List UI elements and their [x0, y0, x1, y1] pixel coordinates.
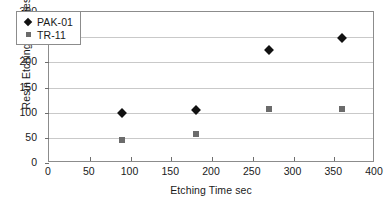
y-tick-mark — [45, 88, 49, 89]
gridline — [49, 37, 373, 38]
chart-legend: PAK‑01 TR‑11 — [16, 11, 81, 45]
data-point — [193, 131, 199, 137]
gridline — [49, 113, 373, 114]
x-tick-mark — [294, 157, 295, 161]
y-tick-mark — [45, 163, 49, 164]
x-tick-label: 350 — [324, 165, 342, 177]
data-point — [337, 33, 347, 43]
x-tick-mark — [334, 157, 335, 161]
diamond-marker-icon — [22, 19, 34, 25]
x-tick-mark — [131, 157, 132, 161]
legend-item-0: PAK‑01 — [22, 15, 73, 28]
x-tick-mark — [90, 157, 91, 161]
x-tick-label: 100 — [121, 165, 139, 177]
data-point — [339, 106, 345, 112]
chart-figure: Resin Etching Thickness nm 0501001502002… — [0, 0, 391, 208]
x-tick-label: 200 — [202, 165, 220, 177]
gridline — [49, 88, 373, 89]
x-tick-label: 150 — [161, 165, 179, 177]
x-axis-title: Etching Time sec — [48, 184, 374, 196]
plot-area — [48, 11, 374, 162]
data-point — [264, 45, 274, 55]
x-tick-label: 400 — [365, 165, 383, 177]
x-tick-mark — [212, 157, 213, 161]
x-tick-label: 0 — [45, 165, 51, 177]
x-tick-label: 300 — [284, 165, 302, 177]
legend-item-label: PAK‑01 — [37, 16, 73, 28]
data-point — [266, 106, 272, 112]
gridline — [49, 62, 373, 63]
gridline — [49, 138, 373, 139]
x-tick-mark — [253, 157, 254, 161]
y-tick-mark — [45, 62, 49, 63]
legend-item-1: TR‑11 — [22, 28, 73, 41]
square-marker-icon — [22, 32, 34, 37]
legend-item-label: TR‑11 — [37, 29, 66, 41]
data-point — [117, 108, 127, 118]
data-point — [119, 137, 125, 143]
x-tick-label: 50 — [83, 165, 95, 177]
x-tick-label: 250 — [243, 165, 261, 177]
x-tick-mark — [171, 157, 172, 161]
y-tick-mark — [45, 138, 49, 139]
y-tick-mark — [45, 113, 49, 114]
